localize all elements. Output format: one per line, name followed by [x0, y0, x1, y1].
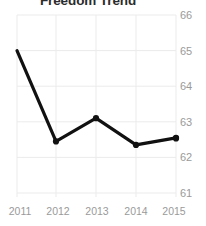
y-axis-tick-62: 62: [180, 151, 204, 163]
y-axis-tick-63: 63: [180, 116, 204, 128]
x-axis-tick-2013: 2013: [77, 205, 117, 217]
x-axis-tick-2011: 2011: [0, 205, 40, 217]
x-axis-tick-2012: 2012: [38, 205, 78, 217]
y-axis-tick-65: 65: [180, 45, 204, 57]
y-axis-tick-61: 61: [180, 187, 204, 199]
chart-canvas: [0, 0, 206, 226]
x-axis-tick-2014: 2014: [116, 205, 156, 217]
data-point-2013: [133, 142, 139, 148]
data-point-2015: [173, 135, 179, 141]
y-axis-tick-66: 66: [180, 9, 204, 21]
x-axis-tick-2015: 2015: [154, 205, 194, 217]
data-point-2012: [93, 115, 99, 121]
y-axis-tick-64: 64: [180, 80, 204, 92]
plot-area: [0, 0, 206, 226]
data-point-2011: [53, 138, 59, 144]
line-chart: Freedom Trend: [0, 0, 206, 226]
